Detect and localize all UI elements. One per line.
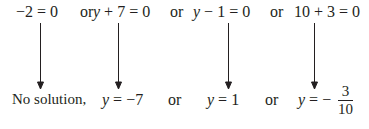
fraction-3-over-10: 3 10 [338,84,353,117]
arrow-down-icon [38,23,44,89]
solution-y-eq-1: y = 1 [207,92,239,108]
arrow-down-icon [226,23,232,89]
or-label-bottom-2: or [265,92,278,108]
fraction-numerator: 3 [338,84,353,101]
arrows-layer [0,0,369,129]
solution-text: No solution, [12,91,86,107]
solution-no-solution: No solution, [12,92,86,107]
or-text: or [265,91,278,108]
solution-text: = 1 [214,91,239,108]
arrow-down-icon [312,23,318,89]
solution-text: = −7 [109,91,143,108]
or-label-bottom-1: or [168,92,181,108]
solution-y-eq-minus-7: y = −7 [102,92,143,108]
solution-text: = − [305,91,331,108]
solution-y-eq-minus-3-tenths: y = − [298,92,331,108]
fraction-denominator: 10 [338,101,353,117]
arrow-down-icon [116,23,122,89]
or-text: or [168,91,181,108]
